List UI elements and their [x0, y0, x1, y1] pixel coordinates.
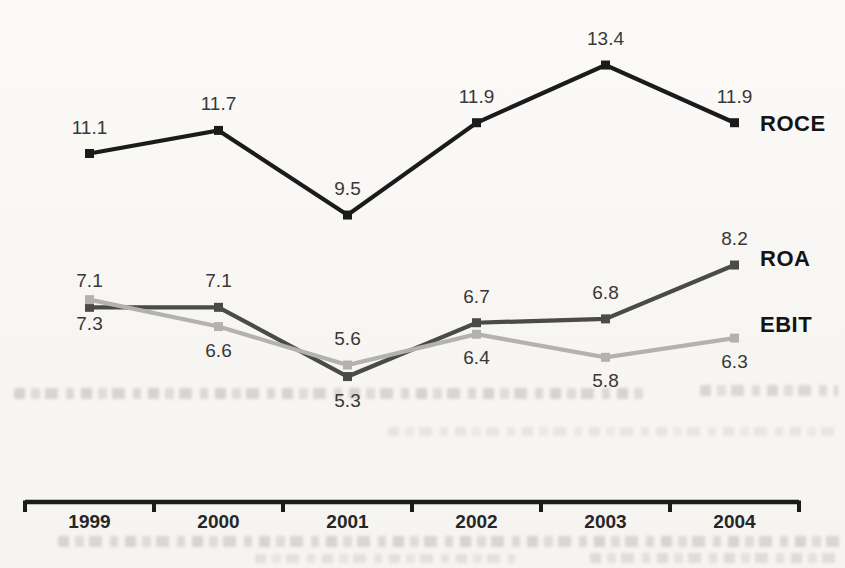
data-label-roce: 9.5 — [334, 178, 360, 199]
data-label-roce: 11.9 — [717, 86, 753, 107]
data-label-roa: 6.7 — [463, 286, 489, 307]
scanned-page: 19992000200120022003200411.111.79.511.91… — [0, 0, 845, 568]
data-label-ebit: 5.8 — [592, 370, 618, 391]
data-point-ebit — [343, 361, 352, 370]
x-axis-label: 2002 — [455, 511, 497, 532]
data-label-roa: 7.1 — [205, 270, 231, 291]
series-label-roce: ROCE — [760, 111, 826, 136]
series-label-roa: ROA — [760, 246, 810, 271]
data-point-ebit — [214, 322, 223, 331]
data-point-roce — [343, 211, 352, 220]
data-point-roa — [85, 303, 94, 312]
series-line-ebit — [90, 300, 735, 365]
data-label-ebit: 7.3 — [76, 313, 102, 334]
series-line-roce — [90, 65, 735, 215]
data-label-roce: 11.7 — [201, 93, 237, 114]
data-point-ebit — [472, 330, 481, 339]
data-label-roa: 8.2 — [721, 228, 747, 249]
data-point-ebit — [730, 334, 739, 343]
data-label-ebit: 6.4 — [463, 347, 490, 368]
series-label-ebit: EBIT — [760, 312, 812, 337]
data-point-roce — [472, 118, 481, 127]
x-axis-label: 1999 — [68, 511, 110, 532]
x-axis-label: 2000 — [197, 511, 239, 532]
data-label-ebit: 6.6 — [205, 340, 231, 361]
data-point-roce — [601, 61, 610, 70]
data-label-roce: 13.4 — [587, 28, 624, 49]
data-label-roa: 5.3 — [334, 390, 360, 411]
data-point-roce — [730, 118, 739, 127]
data-point-roa — [601, 314, 610, 323]
data-point-ebit — [601, 353, 610, 362]
data-point-roa — [730, 261, 739, 270]
data-label-roce: 11.9 — [459, 86, 495, 107]
data-point-ebit — [85, 295, 94, 304]
data-point-roce — [214, 126, 223, 135]
data-label-roa: 6.8 — [592, 282, 618, 303]
data-label-roa: 7.1 — [76, 270, 102, 291]
data-point-roa — [343, 372, 352, 381]
line-chart: 19992000200120022003200411.111.79.511.91… — [0, 0, 845, 568]
data-point-roa — [214, 303, 223, 312]
data-point-roce — [85, 149, 94, 158]
x-axis-label: 2001 — [326, 511, 369, 532]
data-point-roa — [472, 318, 481, 327]
data-label-roce: 11.1 — [72, 117, 108, 138]
data-label-ebit: 6.3 — [721, 351, 747, 372]
x-axis-label: 2003 — [584, 511, 626, 532]
data-label-ebit: 5.6 — [334, 328, 360, 349]
x-axis-label: 2004 — [713, 511, 756, 532]
